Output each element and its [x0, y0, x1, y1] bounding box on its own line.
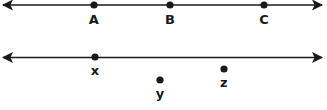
- point-label-z: z: [212, 76, 236, 90]
- point-dot-b: [166, 1, 173, 8]
- point-dot-z: [220, 65, 227, 72]
- point-dot-y: [156, 76, 163, 83]
- point-label-y: y: [148, 87, 172, 101]
- point-dot-c: [260, 1, 267, 8]
- point-label-x: x: [83, 64, 107, 78]
- point-dot-a: [90, 1, 97, 8]
- point-label-a: A: [82, 13, 106, 27]
- point-label-c: C: [252, 13, 276, 27]
- point-dot-x: [91, 53, 98, 60]
- point-label-b: B: [158, 13, 182, 27]
- geometry-diagram: A B C x y z: [0, 0, 327, 110]
